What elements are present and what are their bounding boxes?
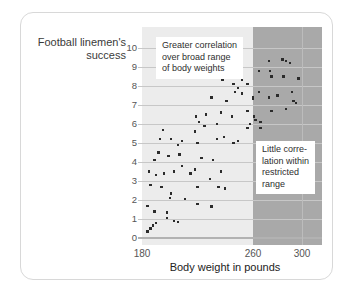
data-point: [252, 96, 254, 98]
y-tick-label: 3: [107, 175, 137, 186]
data-point: [170, 138, 172, 140]
data-point: [173, 220, 175, 222]
data-point: [196, 142, 198, 144]
data-point: [237, 87, 239, 89]
data-point: [289, 62, 291, 64]
restricted-range-region: [253, 27, 322, 245]
y-tick-label: 9: [107, 61, 137, 72]
annotation-broad-range-note: Greater correlationover broad rangeof bo…: [156, 37, 243, 79]
data-point: [246, 110, 248, 112]
data-point: [200, 157, 202, 159]
data-point: [225, 100, 227, 102]
data-point: [220, 170, 222, 172]
data-point: [268, 60, 270, 62]
data-point: [231, 115, 233, 117]
y-tick-label: 2: [107, 194, 137, 205]
data-point: [205, 113, 207, 115]
data-point: [216, 138, 218, 140]
y-tick-label: 8: [107, 80, 137, 91]
data-point: [241, 79, 243, 81]
data-point: [166, 217, 168, 219]
data-point: [259, 121, 261, 123]
y-tick-label: 5: [107, 137, 137, 148]
data-point: [149, 227, 151, 229]
data-point: [169, 197, 171, 199]
data-point: [196, 186, 198, 188]
x-gridline-300: [302, 27, 303, 245]
data-point: [297, 77, 299, 79]
data-point: [153, 159, 155, 161]
annotation-line: restricted: [262, 167, 309, 179]
data-point: [224, 187, 226, 189]
data-point: [155, 174, 157, 176]
data-point: [148, 170, 150, 172]
y-gridline: [138, 105, 322, 106]
y-gridline: [138, 200, 322, 201]
data-point: [159, 138, 161, 140]
data-point: [157, 151, 159, 153]
data-point: [254, 119, 256, 121]
data-point: [249, 123, 251, 125]
data-point: [166, 211, 168, 213]
data-point: [163, 172, 165, 174]
y-tick-label: 0: [107, 232, 137, 243]
data-point: [221, 79, 223, 81]
data-point: [237, 140, 239, 142]
data-point: [194, 168, 196, 170]
data-point: [177, 221, 179, 223]
data-point: [285, 108, 287, 110]
data-point: [209, 178, 211, 180]
data-point: [178, 153, 180, 155]
data-point: [234, 91, 236, 93]
data-point: [220, 111, 222, 113]
data-point: [160, 186, 162, 188]
data-point: [194, 130, 196, 132]
data-point: [258, 70, 260, 72]
data-point: [270, 75, 272, 77]
data-point: [210, 96, 212, 98]
data-point: [269, 70, 271, 72]
data-point: [198, 121, 200, 123]
annotation-line: of body weights: [162, 63, 237, 75]
annotation-line: Greater correlation: [162, 40, 237, 52]
annotation-line: lation within: [262, 156, 309, 168]
data-point: [196, 203, 198, 205]
y-tick-label: 4: [107, 156, 137, 167]
data-point: [181, 165, 183, 167]
x-tick-label: 260: [238, 248, 268, 259]
data-point: [167, 155, 169, 157]
y-gridline: [138, 124, 322, 125]
x-axis-title: Body weight in pounds: [135, 261, 315, 273]
data-point: [155, 222, 157, 224]
data-point: [203, 125, 205, 127]
data-point: [276, 94, 278, 96]
figure-canvas: Football linemen's success Body weight i…: [0, 0, 352, 300]
data-point: [212, 159, 214, 161]
data-point: [246, 83, 248, 85]
annotation-line: Little corre-: [262, 144, 309, 156]
y-tick-label: 1: [107, 213, 137, 224]
data-point: [146, 205, 148, 207]
y-tick-label: 10: [107, 42, 137, 53]
data-point: [216, 123, 218, 125]
data-point: [246, 127, 248, 129]
y-gridline: [138, 237, 322, 239]
data-point: [162, 129, 164, 131]
data-point: [270, 110, 272, 112]
annotation-restricted-range-note: Little corre-lation withinrestrictedrang…: [256, 141, 315, 194]
data-point: [241, 92, 243, 94]
data-point: [181, 140, 183, 142]
data-point: [153, 210, 155, 212]
data-point: [268, 96, 270, 98]
y-gridline: [138, 86, 322, 87]
data-point: [195, 115, 197, 117]
y-tick-label: 6: [107, 118, 137, 129]
data-point: [146, 230, 148, 232]
data-point: [177, 144, 179, 146]
data-point: [285, 60, 287, 62]
data-point: [173, 170, 175, 172]
data-point: [170, 192, 172, 194]
x-tick-label: 300: [287, 248, 317, 259]
y-tick-label: 7: [107, 99, 137, 110]
data-point: [253, 115, 255, 117]
